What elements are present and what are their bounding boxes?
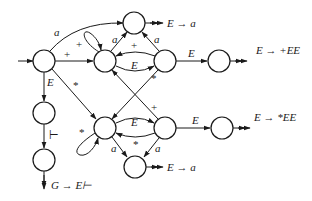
- label-a: a: [154, 33, 160, 45]
- label-plus: +: [131, 39, 137, 51]
- production-plus-ee: E → +EE: [255, 44, 300, 56]
- label-a: a: [111, 142, 117, 154]
- state-bottom: [124, 156, 146, 178]
- edge-lowerright-lowermid: [116, 133, 155, 137]
- label-star: *: [73, 79, 79, 91]
- production-accept: G → E⊢: [51, 179, 92, 191]
- state-lower-right: [154, 117, 176, 139]
- label-star: *: [151, 72, 157, 84]
- edge-uppermid-loop: [84, 32, 101, 52]
- label-star: *: [133, 138, 139, 150]
- production-top: E → a: [166, 17, 196, 29]
- state-left-3: [33, 149, 55, 171]
- state-top: [123, 12, 145, 34]
- state-left-2: [33, 102, 55, 124]
- label-a: a: [54, 26, 60, 38]
- label-a: a: [112, 33, 118, 45]
- label-E: E: [191, 114, 199, 126]
- label-a: a: [155, 142, 161, 154]
- label-plus: +: [64, 48, 70, 60]
- edge-start-lowermid: [52, 69, 96, 119]
- state-plus-ee: [208, 50, 230, 72]
- label-star: *: [79, 126, 85, 138]
- state-upper-mid: [94, 50, 116, 72]
- production-bottom: E → a: [166, 161, 196, 173]
- label-E: E: [130, 59, 138, 71]
- state-start: [33, 50, 55, 72]
- production-star-ee: E → *EE: [253, 111, 296, 123]
- state-upper-right: [154, 50, 176, 72]
- state-lower-mid: [94, 117, 116, 139]
- state-star-ee: [211, 117, 233, 139]
- label-plus: +: [76, 38, 82, 50]
- state-diagram: a + E * + a a + E E * + ⊢ G → E⊢ * E * a: [0, 0, 312, 201]
- edge-upperright-uppermid: [116, 52, 155, 56]
- label-E: E: [46, 76, 54, 88]
- label-turnstile: ⊢: [49, 129, 59, 141]
- label-E: E: [130, 116, 138, 128]
- label-plus: +: [151, 101, 157, 113]
- label-E: E: [187, 47, 195, 59]
